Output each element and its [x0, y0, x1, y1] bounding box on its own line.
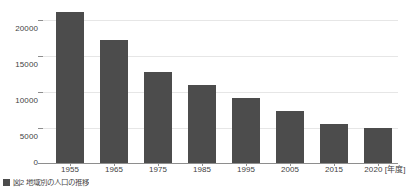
bar-1995[interactable] [232, 98, 260, 163]
bar-1955[interactable] [56, 12, 84, 163]
caption-text: 図2 地域別の人口の推移 [13, 179, 89, 187]
x-tick-label-1995: 1995 [226, 166, 266, 174]
bar-2020[interactable] [364, 128, 392, 163]
x-tick-label-1955: 1955 [50, 166, 90, 174]
bar-1965[interactable] [100, 40, 128, 163]
y-axis: 20000 15000 10000 5000 0 [0, 8, 38, 163]
x-axis: 1955 1965 1975 1985 1995 2005 2015 2020 … [43, 166, 398, 178]
plot-area [43, 8, 398, 163]
x-tick-label-1965: 1965 [94, 166, 134, 174]
axis-baseline-zero [43, 163, 398, 164]
bar-1985[interactable] [188, 85, 216, 163]
bar-1975[interactable] [144, 72, 172, 163]
caption-swatch-icon [3, 179, 10, 186]
y-tick-label-10000: 10000 [15, 97, 38, 105]
bar-2005[interactable] [276, 111, 304, 163]
bar-chart-figure: 20000 15000 10000 5000 0 [0, 0, 412, 187]
x-tick-label-2020: 2020 [年度] [353, 166, 412, 174]
x-tick-label-2005: 2005 [270, 166, 310, 174]
y-tick-label-5000: 5000 [20, 133, 38, 141]
figure-caption: 図2 地域別の人口の推移 [3, 179, 89, 187]
bar-2015[interactable] [320, 124, 348, 163]
bar-series [43, 8, 398, 163]
y-tick-label-20000: 20000 [15, 25, 38, 33]
x-tick-label-2015: 2015 [314, 166, 354, 174]
x-tick-label-1975: 1975 [138, 166, 178, 174]
y-tick-label-15000: 15000 [15, 61, 38, 69]
x-tick-label-1985: 1985 [182, 166, 222, 174]
